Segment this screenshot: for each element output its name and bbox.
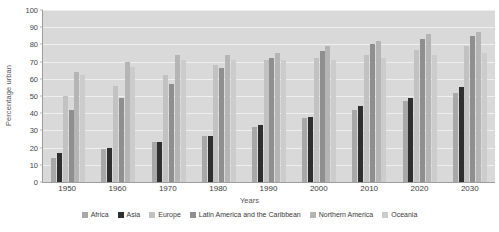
bar [152,142,157,182]
bar [69,110,74,182]
legend-label: Oceania [391,211,417,218]
legend-swatch-icon [382,212,388,218]
y-axis-tick-label: 70 [30,57,38,66]
bar [258,125,263,182]
y-axis-tick-label: 100 [25,6,38,15]
x-axis-tick-label: 1980 [193,184,243,196]
y-axis-tick-label: 30 [30,126,38,135]
bar [364,55,369,182]
bar [376,41,381,182]
urbanization-bar-chart: Percentage urban 0102030405060708090100 … [0,0,499,232]
legend-item[interactable]: Africa [82,211,109,218]
x-axis-tick-label: 2000 [294,184,344,196]
bar [320,51,325,182]
y-axis-tick-label: 40 [30,109,38,118]
bar [125,62,130,182]
y-axis-tick-label: 10 [30,160,38,169]
x-axis-title: Years [0,196,499,205]
bar [130,67,135,182]
bar [381,58,386,182]
bar [325,46,330,182]
x-axis-tick-label: 1970 [143,184,193,196]
x-axis-tick-label: 2010 [344,184,394,196]
bar [181,60,186,182]
legend-swatch-icon [82,212,88,218]
bar [252,127,257,182]
x-axis-title-text: Years [240,196,259,205]
bar [482,53,487,182]
legend-label: Africa [91,211,109,218]
legend-item[interactable]: Asia [118,211,141,218]
bar [219,68,224,182]
legend-label: Asia [127,211,141,218]
bar-groups [43,10,495,182]
bar-group [43,10,93,182]
bar [358,106,363,182]
bar-group [143,10,193,182]
bar [57,153,62,182]
x-axis-tick-labels: 195019601970198019902000201020202030 [42,184,495,196]
bar [420,39,425,182]
bar [74,72,79,182]
bar [208,136,213,182]
bar [470,36,475,182]
legend-label: Latin America and the Caribbean [199,211,301,218]
bar-group [93,10,143,182]
legend-swatch-icon [118,212,124,218]
bar [231,60,236,182]
bar [225,55,230,182]
bar [101,149,106,182]
legend-item[interactable]: Oceania [382,211,417,218]
bar [175,55,180,182]
bar [269,58,274,182]
bar [275,53,280,182]
bar [432,55,437,182]
legend-swatch-icon [190,212,196,218]
legend-label: Europe [158,211,181,218]
bar-group [445,10,495,182]
x-axis-tick-label: 1960 [92,184,142,196]
bar-group [294,10,344,182]
legend-item[interactable]: Europe [149,211,181,218]
bar [51,158,56,182]
bar [163,75,168,182]
bar-group [395,10,445,182]
bar [352,110,357,182]
bar-group [344,10,394,182]
y-axis-tick-label: 0 [34,178,38,187]
bar [476,32,481,182]
y-axis-tick-label: 90 [30,23,38,32]
bar [80,75,85,182]
bar [202,136,207,182]
plot-area [42,10,495,183]
chart-legend: AfricaAsiaEuropeLatin America and the Ca… [0,211,499,218]
y-axis-tick-label: 20 [30,143,38,152]
y-axis-tick-label: 80 [30,40,38,49]
bar [281,60,286,182]
y-axis-tick-label: 60 [30,74,38,83]
legend-item[interactable]: Northern America [310,211,373,218]
bar-group [244,10,294,182]
bar [459,87,464,182]
bar [119,98,124,182]
bar [314,58,319,182]
legend-swatch-icon [149,212,155,218]
bar [370,44,375,182]
bar [169,84,174,182]
x-axis-tick-label: 2030 [445,184,495,196]
y-axis-title-text: Percentage urban [5,64,14,125]
bar [213,65,218,182]
bar-group [194,10,244,182]
x-axis-tick-label: 2020 [394,184,444,196]
legend-item[interactable]: Latin America and the Caribbean [190,211,301,218]
bar [63,96,68,182]
legend-swatch-icon [310,212,316,218]
bar [113,86,118,182]
bar [331,60,336,182]
x-axis-tick-label: 1950 [42,184,92,196]
bar [403,101,408,182]
bar [107,148,112,182]
bar [264,60,269,182]
y-axis-tick-label: 50 [30,92,38,101]
bar [302,118,307,182]
